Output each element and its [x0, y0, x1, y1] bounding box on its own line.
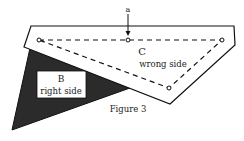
marker-dot-bottom: [167, 86, 171, 90]
piece-c-side-label: wrong side: [139, 59, 187, 69]
arrow-label-a: a: [126, 5, 131, 14]
piece-b-letter: B: [58, 74, 65, 84]
piece-b-side-label: right side: [40, 86, 81, 96]
marker-dot-center: [126, 38, 130, 42]
marker-dot-right: [220, 38, 224, 42]
figure-3-diagram: B right side a C wrong side Figure 3: [0, 0, 244, 141]
figure-caption: Figure 3: [110, 104, 147, 114]
marker-dot-left: [37, 38, 41, 42]
piece-c-letter: C: [138, 46, 146, 57]
